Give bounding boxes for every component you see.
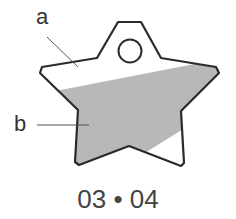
hole-circle [119, 40, 142, 63]
figure-caption: 03 • 04 [0, 186, 236, 212]
label-a: a [36, 6, 48, 28]
label-b: b [14, 113, 26, 135]
leader-line-a [47, 37, 78, 67]
